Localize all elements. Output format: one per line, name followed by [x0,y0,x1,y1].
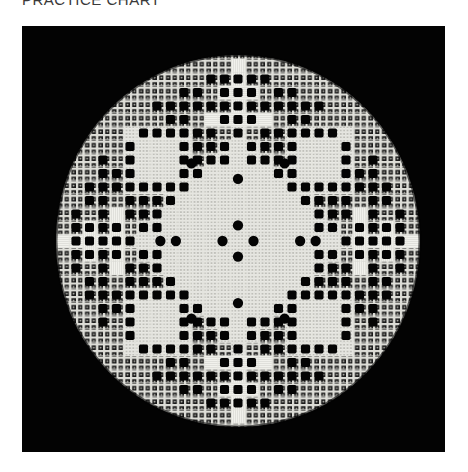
embroidery-photo [22,26,445,452]
page-caption: PRACTICE CHART [22,0,160,8]
hardanger-embroidery-image [22,26,445,452]
